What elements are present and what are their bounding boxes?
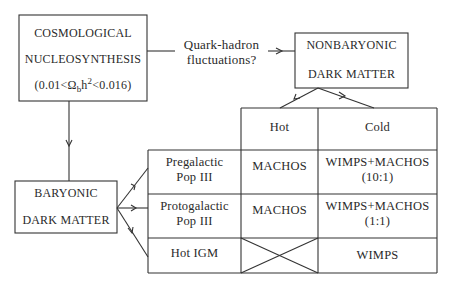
row-label-pregalactic-line2: Pop III xyxy=(148,170,241,185)
range-close: <0.016) xyxy=(92,78,131,92)
cell-hot-igm-cold: WIMPS xyxy=(318,248,437,263)
omega-symbol: Ω xyxy=(68,78,77,92)
cosmological-title-line1: COSMOLOGICAL xyxy=(19,26,147,41)
column-header-hot: Hot xyxy=(241,120,318,135)
cell-protogalactic-hot: MACHOS xyxy=(241,203,318,218)
edge-label-line2: fluctuations? xyxy=(175,52,268,67)
cell-pregalactic-hot: MACHOS xyxy=(241,159,318,174)
column-header-cold: Cold xyxy=(318,120,437,135)
baryonic-title-line1: BARYONIC xyxy=(15,186,117,201)
row-label-hot-igm: Hot IGM xyxy=(148,246,241,261)
cell-protogalactic-cold-line2: (1:1) xyxy=(318,214,437,229)
edge-baryonic-to-pregalactic xyxy=(117,168,148,208)
nonbaryonic-title-line2: DARK MATTER xyxy=(295,67,408,82)
cell-pregalactic-cold-line2: (10:1) xyxy=(318,170,437,185)
nonbaryonic-title-line1: NONBARYONIC xyxy=(295,38,408,53)
row-label-pregalactic-line1: Pregalactic xyxy=(148,155,241,170)
row-label-protogalactic-line1: Protogalactic xyxy=(145,199,244,214)
row-label-protogalactic-line2: Pop III xyxy=(148,214,241,229)
edge-label-line1: Quark-hadron xyxy=(175,37,268,52)
cosmological-title-line2: NUCLEOSYNTHESIS xyxy=(19,52,147,67)
range-open: (0.01< xyxy=(35,78,68,92)
cell-pregalactic-cold-line1: WIMPS+MACHOS xyxy=(318,155,437,170)
arrowhead-hot xyxy=(294,94,300,99)
baryonic-title-line2: DARK MATTER xyxy=(15,213,117,228)
cell-protogalactic-cold-line1: WIMPS+MACHOS xyxy=(318,199,437,214)
edge-nonbaryonic-to-cold xyxy=(318,88,374,108)
baryon-density-range: (0.01<Ωbh2<0.016) xyxy=(19,78,147,93)
